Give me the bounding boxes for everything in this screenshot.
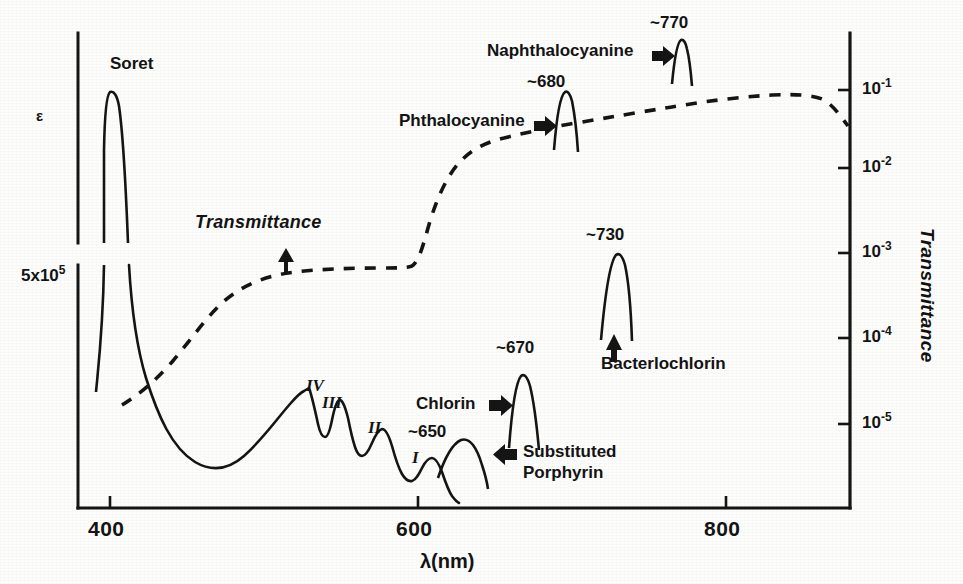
bacteriochlorin-label: Bacterlochlorin <box>601 355 726 373</box>
peak-marker-730 <box>601 254 632 341</box>
y-right-exponent-3: -3 <box>881 239 892 253</box>
transmittance-curve <box>122 95 848 405</box>
y-axis-left-label: ε <box>36 108 43 124</box>
soret-peak-lower-left <box>96 265 104 392</box>
phthalocyanine-label: Phthalocyanine <box>399 112 525 130</box>
y-axis-break-mantissa: 5x10 <box>21 266 59 285</box>
naphthalocyanine-arrow <box>652 46 675 66</box>
peak-marker-670 <box>509 375 539 450</box>
chart-canvas <box>0 0 963 584</box>
q-band-ii-label: II <box>368 419 381 437</box>
y-right-mantissa-1: 10 <box>862 79 881 98</box>
y-right-mantissa-4: 10 <box>862 327 881 346</box>
y-axis-right-title: Transmittance <box>916 228 938 363</box>
y-right-tick-label-1e-2: 10-2 <box>862 155 892 176</box>
chlorin-label: Chlorin <box>416 395 476 413</box>
y-right-exponent-1: -1 <box>881 76 892 90</box>
y-right-tick-label-1e-5: 10-5 <box>862 411 892 432</box>
y-right-mantissa-2: 10 <box>862 157 881 176</box>
spectrum-figure: ε 5x105 Soret Transmittance Naphthalocya… <box>0 0 963 584</box>
x-tick-label-400: 400 <box>88 518 125 541</box>
y-right-exponent-2: -2 <box>881 154 892 168</box>
bacteriochlorin-peak-label: ~730 <box>586 226 624 244</box>
substituted-porphyrin-label-line1: Substituted <box>523 443 617 461</box>
naphthalocyanine-label: Naphthalocyanine <box>487 42 633 60</box>
y-right-tick-label-1e-1: 10-1 <box>862 77 892 98</box>
naphthalocyanine-peak-label: ~770 <box>650 14 688 32</box>
chlorin-arrow <box>489 395 513 416</box>
chlorin-peak-label: ~670 <box>496 339 534 357</box>
y-axis-break-label: 5x105 <box>21 264 66 285</box>
y-axis-break-exponent: 5 <box>59 263 66 277</box>
substituted-porphyrin-label-line2: Porphyrin <box>523 464 603 482</box>
phthalocyanine-peak-label: ~680 <box>527 73 565 91</box>
phthalocyanine-arrow <box>534 116 557 136</box>
soret-peak-upper <box>104 92 128 243</box>
peak-marker-770 <box>672 40 692 86</box>
soret-label: Soret <box>110 55 153 73</box>
peak-marker-680 <box>554 92 578 152</box>
absorption-curve <box>129 265 459 503</box>
transmittance-label: Transmittance <box>195 213 322 232</box>
y-right-exponent-4: -4 <box>881 324 892 338</box>
x-axis-title: λ(nm) <box>420 551 474 573</box>
substituted-porphyrin-arrow <box>493 444 517 465</box>
x-tick-label-800: 800 <box>704 518 741 541</box>
transmittance-arrow <box>278 248 294 272</box>
substituted-porphyrin-peak-label: ~650 <box>408 423 446 441</box>
y-right-tick-label-1e-3: 10-3 <box>862 240 892 261</box>
q-band-iii-label: III <box>322 394 342 412</box>
q-band-i-label: I <box>412 449 419 467</box>
y-right-mantissa-5: 10 <box>862 413 881 432</box>
x-tick-label-600: 600 <box>396 518 433 541</box>
y-right-exponent-5: -5 <box>881 410 892 424</box>
y-right-mantissa-3: 10 <box>862 242 881 261</box>
y-right-tick-label-1e-4: 10-4 <box>862 325 892 346</box>
